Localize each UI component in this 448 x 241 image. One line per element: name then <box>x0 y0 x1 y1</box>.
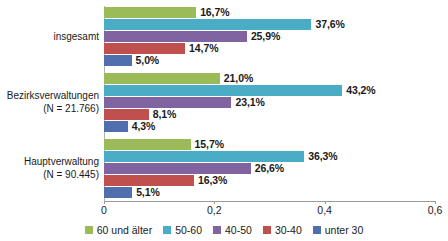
bar <box>104 43 185 54</box>
legend-swatch-icon <box>263 226 271 234</box>
bar-value-label: 16,7% <box>200 6 229 18</box>
bar <box>104 151 304 162</box>
bar <box>104 85 342 96</box>
legend-item[interactable]: 60 und älter <box>85 224 152 236</box>
category-label-line1: insgesamt <box>53 31 99 42</box>
bar-value-label: 43,2% <box>346 84 375 96</box>
legend-swatch-icon <box>85 226 93 234</box>
bar <box>104 7 196 18</box>
bar <box>104 97 231 108</box>
bar <box>104 109 149 120</box>
horizontal-bar-chart: insgesamtBezirksverwaltungen(N = 21.766)… <box>0 0 448 241</box>
bar <box>104 31 247 42</box>
category-label-line2: (N = 90.445) <box>0 168 99 181</box>
bar-value-label: 23,1% <box>235 96 264 108</box>
legend-label: unter 30 <box>325 224 364 236</box>
legend-swatch-icon <box>313 226 321 234</box>
bar-value-label: 15,7% <box>195 138 224 150</box>
legend-label: 50-60 <box>175 224 202 236</box>
bar-value-label: 36,3% <box>308 150 337 162</box>
legend-label: 30-40 <box>275 224 302 236</box>
legend-swatch-icon <box>213 226 221 234</box>
bar <box>104 19 311 30</box>
category-label-line1: Hauptverwaltung <box>24 156 99 167</box>
bar <box>104 55 132 66</box>
bar-value-label: 26,6% <box>255 162 284 174</box>
legend-item[interactable]: unter 30 <box>313 224 364 236</box>
bar-value-label: 21,0% <box>224 72 253 84</box>
bar <box>104 121 128 132</box>
x-tick-label: 0,4 <box>317 204 332 216</box>
bar-value-label: 8,1% <box>153 108 177 120</box>
category-label-insgesamt: insgesamt <box>0 30 99 43</box>
bar <box>104 73 220 84</box>
x-tick-label: 0 <box>101 204 107 216</box>
legend-item[interactable]: 50-60 <box>163 224 202 236</box>
bar-value-label: 25,9% <box>251 30 280 42</box>
chart-legend: 60 und älter50-6040-5030-40unter 30 <box>0 224 448 236</box>
legend-swatch-icon <box>163 226 171 234</box>
x-tick-label: 0,6 <box>428 204 443 216</box>
bar <box>104 187 132 198</box>
bar-value-label: 5,0% <box>136 54 160 66</box>
bar-value-label: 5,1% <box>136 186 160 198</box>
bar <box>104 175 194 186</box>
x-tick-label: 0,2 <box>207 204 222 216</box>
category-label-bezirksverwaltungen: Bezirksverwaltungen(N = 21.766) <box>0 89 99 115</box>
bar <box>104 163 251 174</box>
category-label-line2: (N = 21.766) <box>0 102 99 115</box>
legend-label: 40-50 <box>225 224 252 236</box>
category-label-hauptverwaltung: Hauptverwaltung(N = 90.445) <box>0 155 99 181</box>
legend-item[interactable]: 30-40 <box>263 224 302 236</box>
legend-label: 60 und älter <box>97 224 152 236</box>
bar-value-label: 16,3% <box>198 174 227 186</box>
legend-item[interactable]: 40-50 <box>213 224 252 236</box>
bar-value-label: 4,3% <box>132 120 156 132</box>
bar <box>104 139 191 150</box>
category-label-line1: Bezirksverwaltungen <box>7 90 99 101</box>
bar-value-label: 14,7% <box>189 42 218 54</box>
bar-value-label: 37,6% <box>315 18 344 30</box>
x-axis-line <box>104 201 436 202</box>
